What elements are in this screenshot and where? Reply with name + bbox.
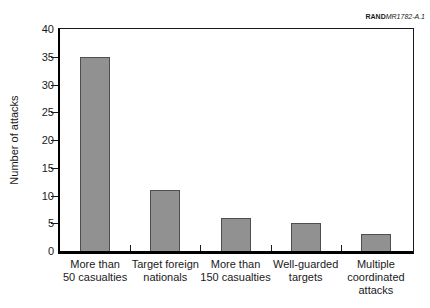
y-axis-tick-label: 25 <box>18 106 54 118</box>
bar <box>80 57 110 251</box>
bar <box>291 223 321 251</box>
figure-source-label: RANDMR1782-A.1 <box>365 13 425 21</box>
x-axis-tick <box>200 245 201 251</box>
y-axis-tick-label: 20 <box>18 134 54 146</box>
x-axis-category-labels: More than 50 casualtiesTarget foreign na… <box>60 258 411 304</box>
y-axis-tick-label: 30 <box>18 79 54 91</box>
bar <box>361 234 391 251</box>
y-axis-tick-label: 15 <box>18 162 54 174</box>
bar <box>150 190 180 251</box>
y-axis-tick-label: 10 <box>18 190 54 202</box>
rand-logo-text: RAND <box>365 13 385 20</box>
plot-area <box>58 28 414 254</box>
x-axis-tick <box>341 245 342 251</box>
figure-id-text: MR1782-A.1 <box>386 13 425 20</box>
x-axis-category-label: Multiple coordinated attacks <box>331 258 421 297</box>
y-axis-tick-label: 40 <box>18 23 54 35</box>
y-axis-tick-label: 5 <box>18 217 54 229</box>
x-axis-tick <box>130 245 131 251</box>
y-axis-tick-label: 0 <box>18 245 54 257</box>
y-axis-tick-label: 35 <box>18 51 54 63</box>
x-axis-tick <box>271 245 272 251</box>
bar <box>221 218 251 251</box>
bar-chart-figure: RANDMR1782-A.1 Number of attacks 0510152… <box>0 0 430 308</box>
